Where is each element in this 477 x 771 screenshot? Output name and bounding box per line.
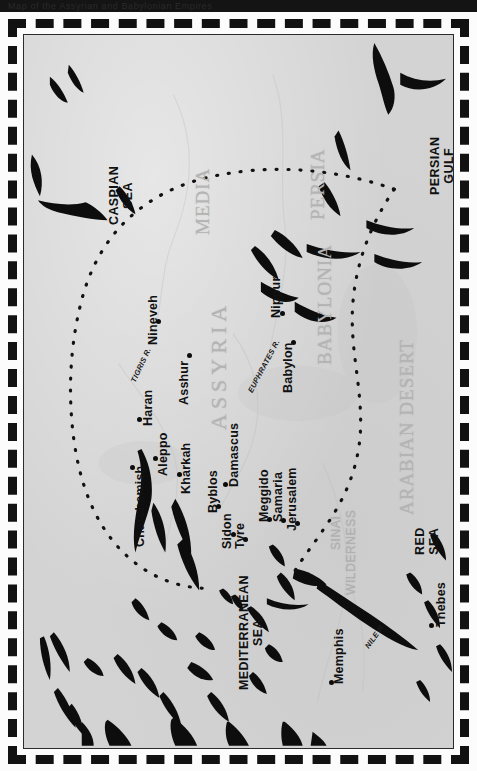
city-dot-meggido [267, 517, 272, 522]
city-dot-nippur [280, 311, 285, 316]
map-page: Map of the Assyrian and Babylonian Empir… [0, 0, 477, 771]
city-dot-haran [137, 417, 142, 422]
map-canvas: MEDIAPERSIABABYLONIAASSYRIAARABIAN DESER… [23, 34, 454, 749]
city-dot-jerusalem [295, 521, 300, 526]
city-dot-nineveh [156, 319, 161, 324]
city-dot-thebes [429, 623, 434, 628]
city-dot-memphis [329, 680, 334, 685]
city-dot-babylon [291, 340, 296, 345]
city-dot-byblos [216, 504, 221, 509]
city-dot-damascus [223, 482, 228, 487]
map-geography [24, 35, 453, 747]
city-dot-aleppo [153, 456, 158, 461]
city-dot-asshur [187, 353, 192, 358]
map-frame-outer: MEDIAPERSIABABYLONIAASSYRIAARABIAN DESER… [0, 12, 477, 771]
title-bar: Map of the Assyrian and Babylonian Empir… [0, 0, 477, 12]
title-bar-text: Map of the Assyrian and Babylonian Empir… [8, 0, 212, 12]
relief-patches [99, 264, 418, 485]
city-dot-tyre [243, 537, 248, 542]
city-dot-samaria [281, 518, 286, 523]
city-dot-sidon [231, 532, 236, 537]
city-dot-charchemish [130, 465, 135, 470]
city-dot-kharkah [177, 472, 182, 477]
